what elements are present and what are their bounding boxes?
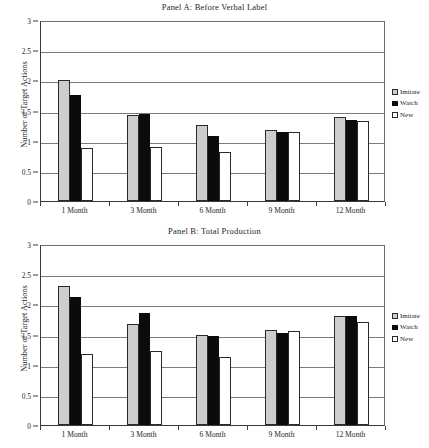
legend-label-new: New (400, 111, 413, 119)
bar-watch-9-month (277, 333, 289, 425)
panel-b-y-tick (33, 335, 38, 336)
panel-b-plot-area (40, 245, 385, 426)
legend-item-new[interactable]: New (392, 109, 429, 121)
x-axis-label-3-month: 3 Month (131, 206, 157, 215)
panel-b-gridline (41, 306, 384, 307)
panel-a-y-tick (33, 202, 38, 203)
panel-b-y-tick (33, 305, 38, 306)
panel-a-gridline (41, 52, 384, 53)
panel-b-y-tick-label: 0.5 (22, 391, 31, 400)
legend-swatch-watch-icon (392, 101, 398, 107)
legend-item-watch[interactable]: Watch (392, 322, 429, 334)
bar-new-9-month (288, 132, 300, 201)
panel-a-y-axis-labels: 00.511.522.53 (0, 21, 38, 202)
panel-b-legend: ImitateWatchNew (392, 310, 429, 345)
legend-swatch-new-icon (392, 336, 398, 342)
x-axis-label-12-month: 12 Month (336, 430, 366, 439)
bar-imitate-3-month (127, 324, 139, 425)
legend-label-imitate: Imitate (400, 312, 420, 320)
x-axis-label-3-month: 3 Month (131, 430, 157, 439)
bar-imitate-12-month (334, 316, 346, 425)
figure: Panel A: Before Verbal Label Number of T… (0, 0, 429, 448)
bar-watch-3-month (139, 114, 151, 201)
panel-a-y-tick (33, 141, 38, 142)
legend-label-imitate: Imitate (400, 88, 420, 96)
panel-b-bars (41, 246, 384, 425)
panel-a-y-tick-label: 2 (27, 77, 31, 86)
bar-new-6-month (219, 152, 231, 201)
bar-new-12-month (357, 121, 369, 201)
bar-watch-6-month (208, 336, 220, 425)
bar-watch-6-month (208, 136, 220, 201)
legend-item-watch[interactable]: Watch (392, 98, 429, 110)
panel-a-y-tick-label: 0.5 (22, 167, 31, 176)
panel-b-y-axis-labels: 00.511.522.53 (0, 245, 38, 426)
bar-imitate-6-month (196, 335, 208, 425)
legend-swatch-new-icon (392, 112, 398, 118)
x-axis-label-1-month: 1 Month (62, 206, 88, 215)
panel-a-y-tick (33, 111, 38, 112)
bar-watch-1-month (70, 95, 82, 201)
panel-a-y-tick (33, 171, 38, 172)
bar-new-1-month (81, 354, 93, 425)
panel-a-y-tick (33, 51, 38, 52)
panel-a-y-tick-label: 1 (27, 137, 31, 146)
bar-new-3-month (150, 147, 162, 201)
bar-new-6-month (219, 357, 231, 425)
panel-b: Panel B: Total Production Number of Targ… (0, 224, 429, 448)
legend-swatch-imitate-icon (392, 313, 398, 319)
bar-new-9-month (288, 331, 300, 425)
bar-new-12-month (357, 322, 369, 425)
panel-a-x-axis-labels: 1 Month3 Month6 Month9 Month12 Month (40, 206, 385, 220)
panel-a-y-tick (33, 21, 38, 22)
legend-item-imitate[interactable]: Imitate (392, 86, 429, 98)
panel-b-y-tick-label: 2 (27, 301, 31, 310)
panel-a-y-tick-label: 2.5 (22, 47, 31, 56)
bar-imitate-3-month (127, 115, 139, 201)
panel-b-y-tick (33, 426, 38, 427)
bar-watch-12-month (346, 120, 358, 201)
x-axis-label-9-month: 9 Month (269, 430, 295, 439)
panel-a: Panel A: Before Verbal Label Number of T… (0, 0, 429, 224)
x-axis-label-6-month: 6 Month (200, 430, 226, 439)
panel-a-y-tick (33, 81, 38, 82)
panel-a-title: Panel A: Before Verbal Label (0, 2, 429, 12)
panel-a-legend: ImitateWatchNew (392, 86, 429, 121)
panel-b-title: Panel B: Total Production (0, 226, 429, 236)
panel-a-y-tick-label: 3 (27, 17, 31, 26)
panel-b-y-tick-label: 2.5 (22, 271, 31, 280)
legend-swatch-watch-icon (392, 325, 398, 331)
panel-a-plot-area (40, 21, 385, 202)
panel-a-gridline (41, 82, 384, 83)
bar-watch-1-month (70, 297, 82, 426)
legend-item-imitate[interactable]: Imitate (392, 310, 429, 322)
x-axis-label-6-month: 6 Month (200, 206, 226, 215)
legend-item-new[interactable]: New (392, 333, 429, 345)
panel-a-gridline (41, 113, 384, 114)
panel-b-y-tick (33, 365, 38, 366)
bar-imitate-1-month (58, 80, 70, 201)
panel-b-y-tick-label: 1.5 (22, 331, 31, 340)
panel-b-x-tick (385, 426, 386, 430)
x-axis-label-9-month: 9 Month (269, 206, 295, 215)
bar-imitate-9-month (265, 130, 277, 201)
panel-b-gridline (41, 276, 384, 277)
bar-new-1-month (81, 148, 93, 201)
bar-imitate-9-month (265, 330, 277, 425)
panel-b-y-tick-label: 1 (27, 361, 31, 370)
x-axis-label-12-month: 12 Month (336, 206, 366, 215)
bar-watch-9-month (277, 132, 289, 201)
panel-b-y-tick-label: 3 (27, 241, 31, 250)
legend-swatch-imitate-icon (392, 89, 398, 95)
legend-label-watch: Watch (400, 323, 418, 331)
panel-b-y-tick (33, 275, 38, 276)
bar-imitate-6-month (196, 125, 208, 201)
panel-a-bars (41, 22, 384, 201)
bar-watch-12-month (346, 316, 358, 425)
x-axis-label-1-month: 1 Month (62, 430, 88, 439)
panel-a-y-tick-label: 1.5 (22, 107, 31, 116)
panel-b-y-tick (33, 395, 38, 396)
legend-label-watch: Watch (400, 99, 418, 107)
bar-watch-3-month (139, 313, 151, 425)
panel-b-x-axis-labels: 1 Month3 Month6 Month9 Month12 Month (40, 430, 385, 444)
